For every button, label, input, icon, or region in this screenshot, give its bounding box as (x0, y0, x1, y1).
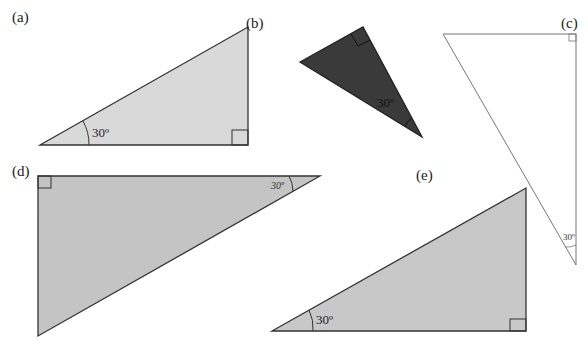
label-a: (a) (12, 9, 29, 26)
angle-label-a: 30º (92, 125, 109, 140)
triangle-a: (a) 30º (12, 9, 248, 145)
label-b: (b) (246, 15, 264, 32)
triangle-b-shape (300, 27, 422, 137)
triangle-e-shape (272, 188, 526, 331)
triangle-d: (d) 30º (12, 163, 320, 336)
triangle-d-shape (38, 176, 320, 336)
triangle-b: (b) 30º (246, 15, 422, 137)
label-c: (c) (561, 15, 578, 32)
angle-label-d: 30º (270, 180, 285, 191)
angle-label-c: 30º (563, 232, 575, 242)
label-d: (d) (12, 163, 30, 180)
label-e: (e) (416, 167, 433, 184)
angle-label-b: 30º (377, 95, 394, 110)
triangle-e: (e) 30º (272, 167, 526, 331)
triangle-a-shape (40, 27, 248, 145)
angle-label-e: 30º (316, 312, 333, 327)
triangles-diagram: (a) 30º (b) 30º (c) 30º (d) 30º (e) 30º (0, 0, 588, 347)
